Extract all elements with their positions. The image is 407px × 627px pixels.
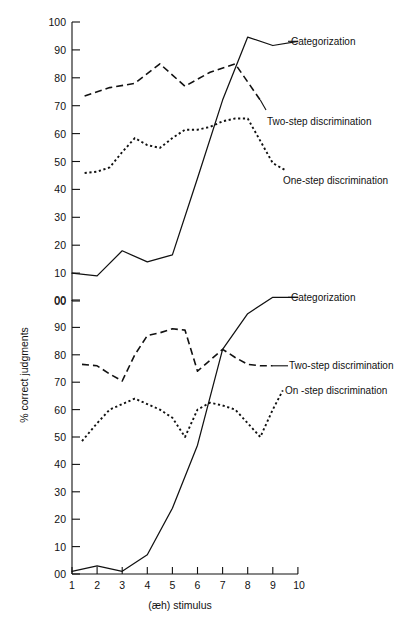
upper-label-two-step: Two-step discrimination [267, 116, 371, 127]
lower-y-tick-labels: 00 90 80 70 60 50 40 30 20 10 00 [54, 294, 66, 580]
lower-series-one-step [82, 390, 283, 441]
upper-series-two-step [85, 64, 261, 100]
x-tick-labels: 1 2 3 4 5 6 7 8 9 10 [69, 579, 305, 591]
lower-ytick-10: 10 [54, 541, 66, 553]
xtick-1: 1 [69, 579, 75, 591]
lower-ytick-80: 80 [54, 349, 66, 361]
upper-series-one-step [85, 119, 286, 174]
upper-ytick-40: 40 [54, 183, 66, 195]
lower-label-two-step: Two-step discrimination [289, 360, 393, 371]
lower-ytick-70: 70 [54, 376, 66, 388]
lower-annotation-one-step: On -step discrimination [285, 385, 387, 396]
lower-y-ticks [72, 300, 80, 574]
xtick-3: 3 [119, 579, 125, 591]
upper-ytick-30: 30 [54, 211, 66, 223]
upper-annotation-one-step: One-step discrimination [283, 175, 388, 186]
xtick-2: 2 [94, 579, 100, 591]
xtick-9: 9 [270, 579, 276, 591]
upper-ytick-20: 20 [54, 239, 66, 251]
xtick-5: 5 [169, 579, 175, 591]
upper-ytick-70: 70 [54, 100, 66, 112]
lower-ytick-20: 20 [54, 513, 66, 525]
upper-annotation-categorization: Categorization [288, 36, 355, 47]
lower-label-categorization: Categorization [291, 292, 355, 303]
lower-ytick-30: 30 [54, 486, 66, 498]
upper-y-ticks [72, 22, 80, 301]
lower-series-two-step [82, 329, 273, 381]
xtick-6: 6 [195, 579, 201, 591]
lower-series-categorization [72, 297, 298, 571]
lower-label-one-step: On -step discrimination [285, 385, 387, 396]
upper-ytick-10: 10 [54, 267, 66, 279]
lower-ytick-40: 40 [54, 458, 66, 470]
lower-ytick-60: 60 [54, 404, 66, 416]
lower-ytick-50: 50 [54, 431, 66, 443]
upper-panel: 100 90 80 70 60 50 40 30 20 10 00 [48, 16, 388, 307]
y-axis-title: % correct judgments [18, 327, 30, 423]
upper-annotation-two-step: Two-step discrimination [260, 100, 371, 127]
xtick-7: 7 [220, 579, 226, 591]
xtick-8: 8 [245, 579, 251, 591]
lower-annotation-categorization: Categorization [288, 292, 355, 303]
upper-ytick-100: 100 [48, 16, 66, 28]
upper-series-categorization-line [72, 37, 298, 276]
upper-label-categorization: Categorization [291, 36, 355, 47]
upper-label-one-step: One-step discrimination [283, 175, 388, 186]
upper-y-tick-labels: 100 90 80 70 60 50 40 30 20 10 00 [48, 16, 66, 307]
figure-container: 100 90 80 70 60 50 40 30 20 10 00 [0, 0, 407, 627]
lower-ytick-100: 00 [54, 294, 66, 306]
chart-svg: 100 90 80 70 60 50 40 30 20 10 00 [0, 0, 407, 627]
xtick-10: 10 [293, 579, 305, 591]
x-axis-title: (æh) stimulus [148, 599, 212, 611]
upper-ytick-90: 90 [54, 44, 66, 56]
upper-ytick-50: 50 [54, 156, 66, 168]
lower-ytick-00: 00 [54, 568, 66, 580]
lower-panel: 00 90 80 70 60 50 40 30 20 10 00 [54, 292, 393, 611]
xtick-4: 4 [144, 579, 150, 591]
upper-ytick-60: 60 [54, 128, 66, 140]
lower-annotation-two-step: Two-step discrimination [273, 360, 394, 371]
lower-ytick-90: 90 [54, 321, 66, 333]
upper-ytick-80: 80 [54, 72, 66, 84]
